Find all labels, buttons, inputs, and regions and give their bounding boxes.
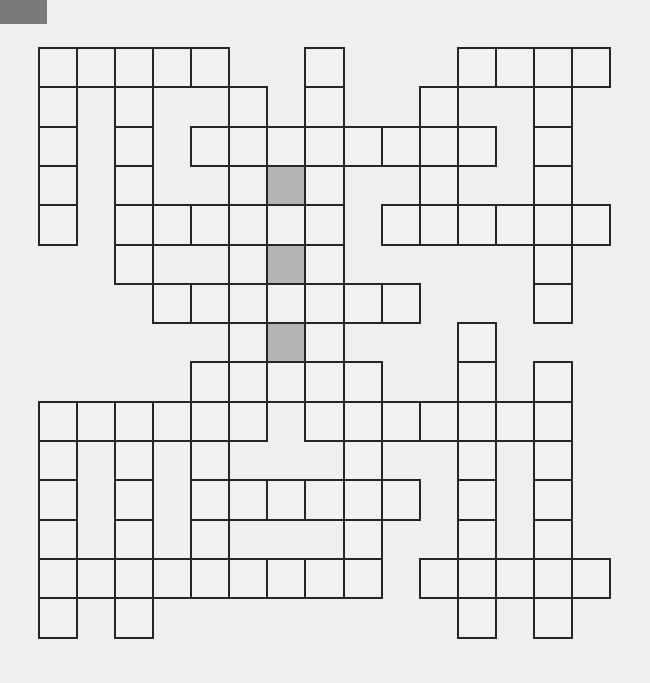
grid-cell[interactable]	[457, 47, 497, 88]
grid-cell[interactable]	[266, 283, 306, 324]
grid-cell[interactable]	[419, 86, 459, 128]
grid-cell[interactable]	[114, 440, 154, 481]
grid-cell[interactable]	[228, 479, 268, 521]
grid-cell[interactable]	[38, 47, 78, 88]
grid-cell[interactable]	[533, 558, 573, 599]
grid-cell[interactable]	[533, 597, 573, 639]
grid-cell[interactable]	[190, 47, 230, 88]
grid-cell[interactable]	[152, 47, 192, 88]
grid-cell[interactable]	[343, 558, 383, 599]
grid-cell[interactable]	[266, 558, 306, 599]
grid-cell[interactable]	[381, 283, 421, 324]
grid-cell[interactable]	[38, 126, 78, 167]
grid-cell[interactable]	[38, 519, 78, 560]
grid-cell[interactable]	[190, 204, 230, 246]
grid-cell[interactable]	[190, 283, 230, 324]
grid-cell[interactable]	[304, 361, 345, 403]
grid-cell[interactable]	[304, 126, 345, 167]
grid-cell[interactable]	[76, 401, 116, 442]
grid-cell[interactable]	[457, 361, 497, 403]
grid-cell[interactable]	[343, 283, 383, 324]
grid-cell[interactable]	[190, 440, 230, 481]
grid-cell[interactable]	[114, 519, 154, 560]
grid-cell[interactable]	[114, 597, 154, 639]
grid-cell[interactable]	[533, 47, 573, 88]
grid-cell[interactable]	[533, 244, 573, 285]
grid-cell[interactable]	[76, 47, 116, 88]
grid-cell[interactable]	[228, 204, 268, 246]
grid-cell[interactable]	[343, 519, 383, 560]
shaded-grid-cell[interactable]	[266, 244, 306, 285]
grid-cell[interactable]	[266, 479, 306, 521]
grid-cell[interactable]	[533, 479, 573, 521]
grid-cell[interactable]	[38, 401, 78, 442]
shaded-grid-cell[interactable]	[266, 322, 306, 363]
grid-cell[interactable]	[495, 401, 535, 442]
grid-cell[interactable]	[304, 479, 345, 521]
grid-cell[interactable]	[381, 479, 421, 521]
grid-cell[interactable]	[114, 47, 154, 88]
grid-cell[interactable]	[571, 204, 611, 246]
grid-cell[interactable]	[419, 401, 459, 442]
grid-cell[interactable]	[495, 204, 535, 246]
grid-cell[interactable]	[571, 47, 611, 88]
grid-cell[interactable]	[343, 440, 383, 481]
grid-cell[interactable]	[114, 165, 154, 206]
grid-cell[interactable]	[152, 401, 192, 442]
grid-cell[interactable]	[343, 479, 383, 521]
grid-cell[interactable]	[114, 479, 154, 521]
grid-cell[interactable]	[304, 86, 345, 128]
grid-cell[interactable]	[152, 204, 192, 246]
grid-cell[interactable]	[38, 597, 78, 639]
grid-cell[interactable]	[114, 244, 154, 285]
grid-cell[interactable]	[152, 558, 192, 599]
grid-cell[interactable]	[304, 322, 345, 363]
shaded-grid-cell[interactable]	[266, 165, 306, 206]
grid-cell[interactable]	[228, 86, 268, 128]
grid-cell[interactable]	[38, 440, 78, 481]
grid-cell[interactable]	[38, 558, 78, 599]
grid-cell[interactable]	[457, 597, 497, 639]
grid-cell[interactable]	[381, 401, 421, 442]
grid-cell[interactable]	[343, 126, 383, 167]
grid-cell[interactable]	[533, 519, 573, 560]
grid-cell[interactable]	[190, 361, 230, 403]
grid-cell[interactable]	[304, 165, 345, 206]
grid-cell[interactable]	[381, 126, 421, 167]
grid-cell[interactable]	[571, 558, 611, 599]
grid-cell[interactable]	[152, 283, 192, 324]
grid-cell[interactable]	[228, 165, 268, 206]
grid-cell[interactable]	[533, 204, 573, 246]
grid-cell[interactable]	[190, 401, 230, 442]
grid-cell[interactable]	[190, 126, 230, 167]
grid-cell[interactable]	[114, 204, 154, 246]
grid-cell[interactable]	[419, 558, 459, 599]
grid-cell[interactable]	[419, 204, 459, 246]
grid-cell[interactable]	[228, 283, 268, 324]
grid-cell[interactable]	[457, 519, 497, 560]
grid-cell[interactable]	[304, 47, 345, 88]
grid-cell[interactable]	[228, 558, 268, 599]
grid-cell[interactable]	[457, 440, 497, 481]
grid-cell[interactable]	[304, 204, 345, 246]
grid-cell[interactable]	[343, 361, 383, 403]
grid-cell[interactable]	[266, 126, 306, 167]
grid-cell[interactable]	[533, 283, 573, 324]
grid-cell[interactable]	[228, 361, 268, 403]
grid-cell[interactable]	[114, 126, 154, 167]
grid-cell[interactable]	[495, 47, 535, 88]
grid-cell[interactable]	[457, 322, 497, 363]
grid-cell[interactable]	[533, 86, 573, 128]
grid-cell[interactable]	[266, 204, 306, 246]
grid-cell[interactable]	[419, 126, 459, 167]
grid-cell[interactable]	[228, 244, 268, 285]
grid-cell[interactable]	[228, 322, 268, 363]
grid-cell[interactable]	[533, 401, 573, 442]
grid-cell[interactable]	[495, 558, 535, 599]
grid-cell[interactable]	[457, 558, 497, 599]
grid-cell[interactable]	[76, 558, 116, 599]
grid-cell[interactable]	[38, 479, 78, 521]
grid-cell[interactable]	[266, 361, 306, 403]
grid-cell[interactable]	[304, 558, 345, 599]
grid-cell[interactable]	[114, 86, 154, 128]
